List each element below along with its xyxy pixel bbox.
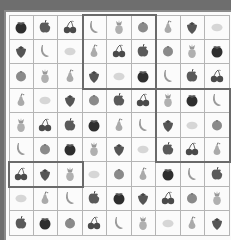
strawberry-icon: [159, 116, 177, 134]
orange-icon: [110, 165, 128, 183]
cell-r8-c8[interactable]: [181, 187, 206, 212]
cell-r1-c5[interactable]: [107, 15, 132, 40]
cell-r1-c8[interactable]: [181, 15, 206, 40]
cell-r8-c2[interactable]: [34, 187, 59, 212]
cell-r9-c7[interactable]: [156, 211, 181, 236]
mangosteen-icon: [36, 214, 54, 232]
cell-r1-c6[interactable]: [132, 15, 157, 40]
banana-icon: [61, 189, 79, 207]
cell-r6-c1[interactable]: [9, 138, 34, 163]
cell-r4-c4[interactable]: [83, 89, 108, 114]
cell-r9-c6[interactable]: [132, 211, 157, 236]
cell-r5-c8[interactable]: [181, 113, 206, 138]
cell-r9-c9[interactable]: [205, 211, 230, 236]
cell-r6-c5[interactable]: [107, 138, 132, 163]
cell-r4-c2[interactable]: [34, 89, 59, 114]
cell-r4-c6[interactable]: [132, 89, 157, 114]
cell-r8-c6[interactable]: [132, 187, 157, 212]
cell-r9-c5[interactable]: [107, 211, 132, 236]
cell-r2-c1[interactable]: [9, 40, 34, 65]
cell-r6-c8[interactable]: [181, 138, 206, 163]
cell-r5-c7[interactable]: [156, 113, 181, 138]
cell-r5-c2[interactable]: [34, 113, 59, 138]
cell-r5-c4[interactable]: [83, 113, 108, 138]
lemon-icon: [85, 165, 103, 183]
cherries-icon: [61, 18, 79, 36]
cell-r9-c8[interactable]: [181, 211, 206, 236]
orange-icon: [159, 42, 177, 60]
banana-icon: [110, 214, 128, 232]
cell-r9-c4[interactable]: [83, 211, 108, 236]
cell-r5-c5[interactable]: [107, 113, 132, 138]
cell-r3-c8[interactable]: [181, 64, 206, 89]
cell-r2-c7[interactable]: [156, 40, 181, 65]
cell-r7-c5[interactable]: [107, 162, 132, 187]
cell-r4-c5[interactable]: [107, 89, 132, 114]
cell-r8-c1[interactable]: [9, 187, 34, 212]
cell-r8-c9[interactable]: [205, 187, 230, 212]
cell-r9-c1[interactable]: [9, 211, 34, 236]
cell-r3-c2[interactable]: [34, 64, 59, 89]
cherries-icon: [183, 140, 201, 158]
cell-r4-c8[interactable]: [181, 89, 206, 114]
cell-r8-c3[interactable]: [58, 187, 83, 212]
cell-r6-c2[interactable]: [34, 138, 59, 163]
banana-icon: [159, 67, 177, 85]
cell-r6-c7[interactable]: [156, 138, 181, 163]
banana-icon: [36, 42, 54, 60]
cell-r5-c6[interactable]: [132, 113, 157, 138]
cell-r7-c2[interactable]: [34, 162, 59, 187]
cell-r7-c4[interactable]: [83, 162, 108, 187]
cell-r7-c7[interactable]: [156, 162, 181, 187]
cell-r6-c9[interactable]: [205, 138, 230, 163]
cell-r4-c1[interactable]: [9, 89, 34, 114]
cell-r4-c3[interactable]: [58, 89, 83, 114]
cell-r3-c7[interactable]: [156, 64, 181, 89]
cherries-icon: [208, 67, 226, 85]
cell-r7-c3[interactable]: [58, 162, 83, 187]
cell-r9-c2[interactable]: [34, 211, 59, 236]
cell-r9-c3[interactable]: [58, 211, 83, 236]
pear-icon: [134, 165, 152, 183]
cell-r5-c9[interactable]: [205, 113, 230, 138]
cell-r3-c1[interactable]: [9, 64, 34, 89]
cell-r3-c4[interactable]: [83, 64, 108, 89]
cell-r8-c7[interactable]: [156, 187, 181, 212]
mangosteen-icon: [134, 67, 152, 85]
cell-r6-c4[interactable]: [83, 138, 108, 163]
cell-r1-c4[interactable]: [83, 15, 108, 40]
cell-r4-c7[interactable]: [156, 89, 181, 114]
cell-r5-c1[interactable]: [9, 113, 34, 138]
cell-r7-c1[interactable]: [9, 162, 34, 187]
cell-r2-c6[interactable]: [132, 40, 157, 65]
cell-r1-c2[interactable]: [34, 15, 59, 40]
cell-r1-c1[interactable]: [9, 15, 34, 40]
cell-r8-c4[interactable]: [83, 187, 108, 212]
cell-r7-c9[interactable]: [205, 162, 230, 187]
cell-r6-c3[interactable]: [58, 138, 83, 163]
cell-r2-c5[interactable]: [107, 40, 132, 65]
cell-r2-c2[interactable]: [34, 40, 59, 65]
cell-r3-c6[interactable]: [132, 64, 157, 89]
strawberry-icon: [36, 165, 54, 183]
apple-icon: [208, 165, 226, 183]
apple-icon: [134, 42, 152, 60]
cell-r7-c8[interactable]: [181, 162, 206, 187]
cell-r1-c9[interactable]: [205, 15, 230, 40]
cell-r6-c6[interactable]: [132, 138, 157, 163]
cell-r5-c3[interactable]: [58, 113, 83, 138]
pear-icon: [36, 189, 54, 207]
cell-r2-c9[interactable]: [205, 40, 230, 65]
cell-r4-c9[interactable]: [205, 89, 230, 114]
cell-r2-c8[interactable]: [181, 40, 206, 65]
cell-r1-c3[interactable]: [58, 15, 83, 40]
cell-r8-c5[interactable]: [107, 187, 132, 212]
cell-r2-c4[interactable]: [83, 40, 108, 65]
cell-r3-c3[interactable]: [58, 64, 83, 89]
pineapple-icon: [208, 189, 226, 207]
cell-r3-c5[interactable]: [107, 64, 132, 89]
cell-r7-c6[interactable]: [132, 162, 157, 187]
cell-r2-c3[interactable]: [58, 40, 83, 65]
cell-r1-c7[interactable]: [156, 15, 181, 40]
cell-r3-c9[interactable]: [205, 64, 230, 89]
